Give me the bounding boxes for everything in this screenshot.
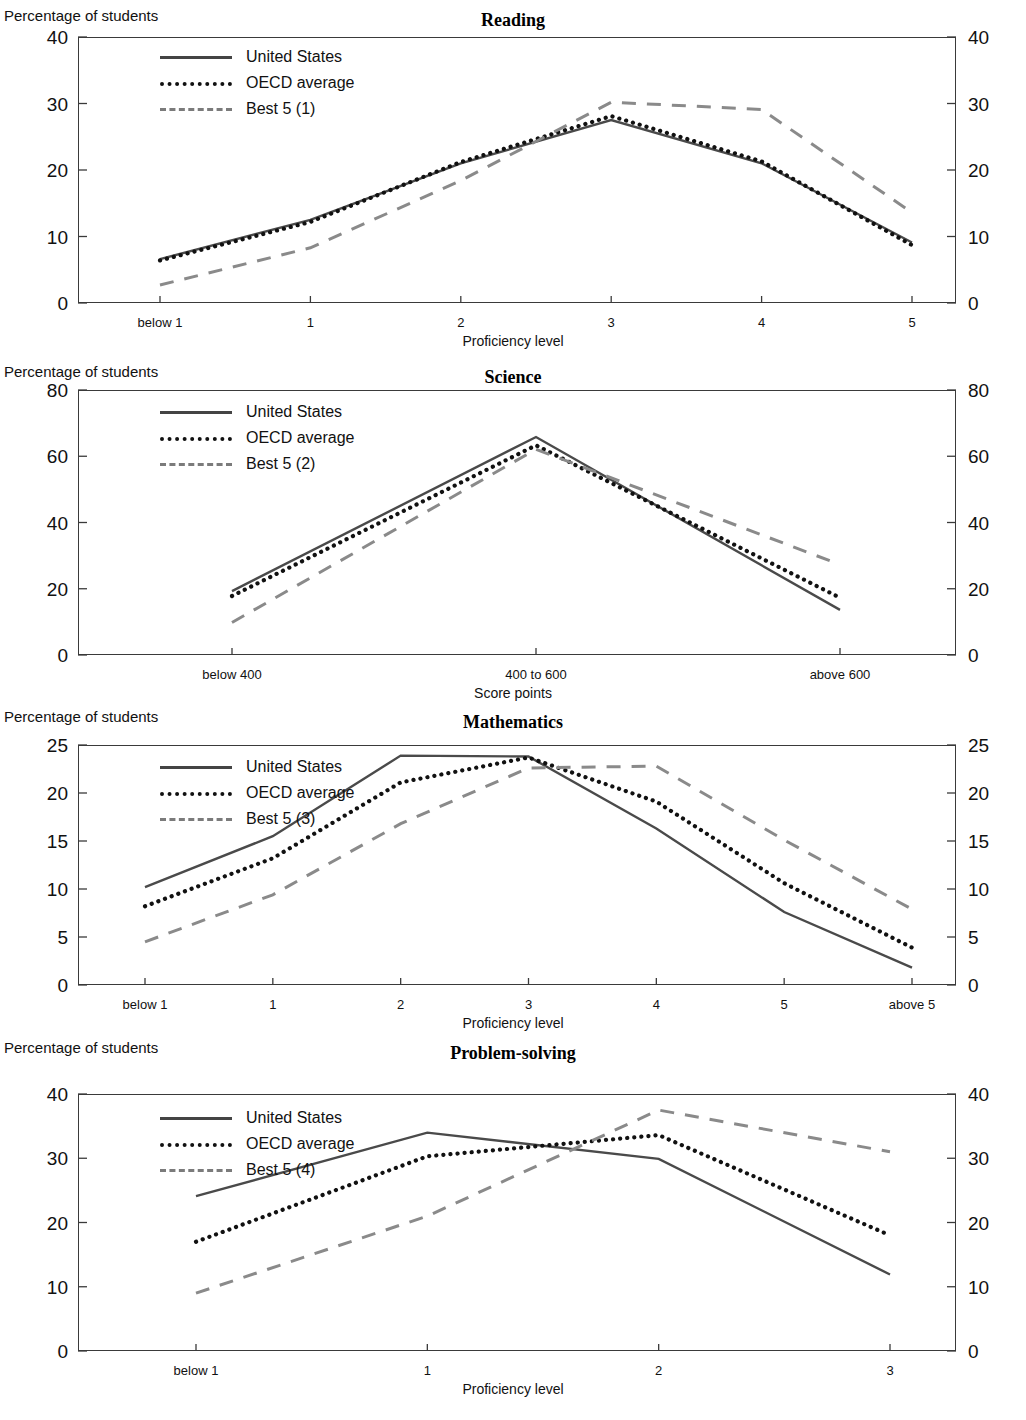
x-axis-tick-label: 2: [331, 998, 471, 1011]
x-axis-tick-label: below 1: [90, 316, 230, 329]
y-axis-tick-label-left: 40: [2, 1085, 68, 1104]
y-axis-tick-label-right: 5: [968, 928, 1026, 947]
legend-label: Best 5 (1): [246, 100, 315, 118]
chart-panel-mathematics: Percentage of students Mathematics 00551…: [0, 707, 1026, 1032]
chart-panel-problem-solving: Percentage of students Problem-solving 0…: [0, 1032, 1026, 1420]
x-axis-tick-label: 1: [357, 1364, 497, 1377]
legend-label: Best 5 (4): [246, 1161, 315, 1179]
y-axis-tick-label-left: 20: [2, 161, 68, 180]
y-axis-tick-label-right: 15: [968, 832, 1026, 851]
y-axis-tick-label-right: 20: [968, 161, 1026, 180]
y-axis-tick-label-left: 0: [2, 294, 68, 313]
x-axis-title: Proficiency level: [0, 1382, 1026, 1396]
data-series-line: [232, 445, 840, 597]
y-axis-tick-label-left: 20: [2, 784, 68, 803]
legend-swatch-solid-icon: [160, 766, 232, 769]
y-axis-tick-label-left: 20: [2, 580, 68, 599]
y-axis-tick-label-right: 20: [968, 580, 1026, 599]
legend-label: OECD average: [246, 784, 355, 802]
x-axis-tick-label: 5: [714, 998, 854, 1011]
x-axis-tick-label: above 600: [770, 668, 910, 681]
y-axis-tick-label-right: 20: [968, 784, 1026, 803]
legend-swatch-dashed-icon: [160, 818, 232, 821]
y-axis-tick-label-right: 10: [968, 228, 1026, 247]
x-axis-tick-label: 3: [820, 1364, 960, 1377]
x-axis-tick-label: above 5: [842, 998, 982, 1011]
legend-label: OECD average: [246, 429, 355, 447]
y-axis-tick-label-left: 30: [2, 1149, 68, 1168]
y-axis-tick-label-right: 40: [968, 514, 1026, 533]
legend-swatch-solid-icon: [160, 411, 232, 414]
y-axis-tick-label-right: 0: [968, 646, 1026, 665]
y-axis-tick-label-left: 10: [2, 880, 68, 899]
legend-swatch-solid-icon: [160, 1117, 232, 1120]
y-axis-tick-label-right: 0: [968, 976, 1026, 995]
legend-swatch-dotted-icon: [160, 1143, 232, 1147]
x-axis-title: Score points: [0, 686, 1026, 700]
y-axis-tick-label-right: 0: [968, 294, 1026, 313]
legend-label: OECD average: [246, 74, 355, 92]
y-axis-tick-label-left: 40: [2, 28, 68, 47]
legend-swatch-solid-icon: [160, 56, 232, 59]
y-axis-tick-label-left: 15: [2, 832, 68, 851]
legend-swatch-dashed-icon: [160, 463, 232, 466]
y-axis-tick-label-right: 80: [968, 381, 1026, 400]
legend-swatch-dashed-icon: [160, 108, 232, 111]
y-axis-tick-label-right: 40: [968, 28, 1026, 47]
x-axis-title: Proficiency level: [0, 334, 1026, 348]
chart-panel-reading: Percentage of students Reading 001010202…: [0, 0, 1026, 362]
y-axis-tick-label-left: 10: [2, 228, 68, 247]
y-axis-tick-label-left: 40: [2, 514, 68, 533]
y-axis-tick-label-left: 25: [2, 736, 68, 755]
data-series-line: [196, 1133, 890, 1275]
y-axis-tick-label-left: 5: [2, 928, 68, 947]
legend-label: United States: [246, 758, 342, 776]
chart-canvas-mathematics: [0, 707, 1026, 1032]
y-axis-tick-label-right: 40: [968, 1085, 1026, 1104]
x-axis-tick-label: below 1: [75, 998, 215, 1011]
x-axis-tick-label: 400 to 600: [466, 668, 606, 681]
x-axis-tick-label: 1: [240, 316, 380, 329]
x-axis-tick-label: 4: [586, 998, 726, 1011]
chart-canvas-reading: [0, 0, 1026, 362]
data-series-line: [232, 437, 840, 610]
legend-label: Best 5 (3): [246, 810, 315, 828]
y-axis-tick-label-right: 10: [968, 1278, 1026, 1297]
x-axis-tick-label: 1: [203, 998, 343, 1011]
y-axis-tick-label-left: 10: [2, 1278, 68, 1297]
y-axis-tick-label-right: 0: [968, 1342, 1026, 1361]
data-series-line: [160, 116, 912, 260]
x-axis-tick-label: 4: [692, 316, 832, 329]
chart-panel-science: Percentage of students Science 002020404…: [0, 362, 1026, 707]
legend-swatch-dotted-icon: [160, 82, 232, 86]
legend-label: OECD average: [246, 1135, 355, 1153]
y-axis-tick-label-left: 0: [2, 1342, 68, 1361]
legend-label: United States: [246, 48, 342, 66]
y-axis-tick-label-right: 60: [968, 447, 1026, 466]
legend-swatch-dashed-icon: [160, 1169, 232, 1172]
legend-label: United States: [246, 403, 342, 421]
legend-label: United States: [246, 1109, 342, 1127]
data-series-line: [232, 449, 840, 622]
y-axis-tick-label-left: 0: [2, 976, 68, 995]
data-series-line: [160, 102, 912, 285]
x-axis-tick-label: below 1: [126, 1364, 266, 1377]
y-axis-tick-label-right: 20: [968, 1214, 1026, 1233]
y-axis-tick-label-right: 10: [968, 880, 1026, 899]
y-axis-tick-label-left: 0: [2, 646, 68, 665]
legend-swatch-dotted-icon: [160, 437, 232, 441]
y-axis-tick-label-left: 80: [2, 381, 68, 400]
legend-label: Best 5 (2): [246, 455, 315, 473]
y-axis-tick-label-right: 25: [968, 736, 1026, 755]
y-axis-tick-label-left: 60: [2, 447, 68, 466]
legend-swatch-dotted-icon: [160, 792, 232, 796]
y-axis-tick-label-left: 20: [2, 1214, 68, 1233]
x-axis-tick-label: 3: [541, 316, 681, 329]
y-axis-tick-label-left: 30: [2, 95, 68, 114]
y-axis-tick-label-right: 30: [968, 95, 1026, 114]
x-axis-tick-label: below 400: [162, 668, 302, 681]
chart-canvas-science: [0, 362, 1026, 707]
x-axis-title: Proficiency level: [0, 1016, 1026, 1030]
x-axis-tick-label: 5: [842, 316, 982, 329]
chart-canvas-problem-solving: [0, 1032, 1026, 1420]
